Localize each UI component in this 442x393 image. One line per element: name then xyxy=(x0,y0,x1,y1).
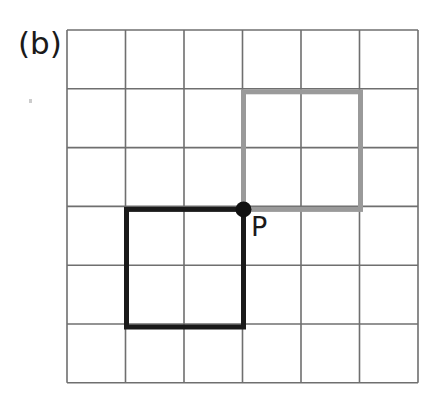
grid-diagram xyxy=(0,0,442,393)
points-group xyxy=(236,201,252,217)
point-P xyxy=(236,201,252,217)
gray-square xyxy=(244,92,361,210)
black-square xyxy=(127,209,244,327)
point-label-p: P xyxy=(251,213,267,240)
figure-panel-b: (b) P xyxy=(0,0,442,393)
